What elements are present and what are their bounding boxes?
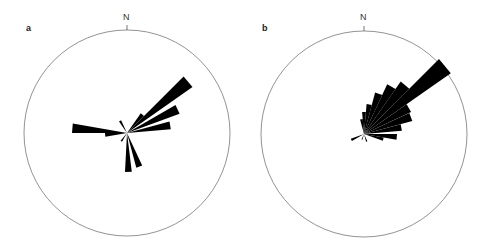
rose-petal: [125, 133, 132, 172]
rose-petal: [119, 120, 127, 133]
rose-diagrams: [0, 0, 485, 249]
north-label-b: N: [360, 12, 367, 22]
rose-petal: [72, 123, 127, 133]
rose-a: [24, 25, 230, 236]
rose-petal: [121, 133, 127, 142]
rose-b: [261, 26, 467, 237]
panel-label-a: a: [26, 23, 31, 33]
rose-petal: [364, 134, 367, 142]
north-label-a: N: [123, 12, 130, 22]
panel-label-b: b: [262, 23, 268, 33]
rose-petal: [351, 134, 364, 141]
rose-petal: [105, 133, 127, 137]
